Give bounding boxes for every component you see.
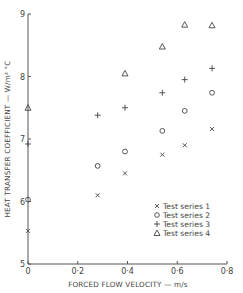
series-triangle — [25, 22, 215, 111]
y-tick-label: 6 — [20, 198, 25, 207]
y-tick-label: 7 — [20, 135, 25, 144]
x-tick-label: 0·6 — [171, 267, 184, 276]
x-tick-label: 0·8 — [221, 267, 234, 276]
y-tick-label: 5 — [20, 260, 25, 269]
legend-item-4: Test series 4 — [154, 229, 210, 238]
cross-icon — [155, 204, 159, 208]
x-tick-label: 0·4 — [121, 267, 134, 276]
x-tick-label: 0 — [25, 267, 30, 276]
legend-item-3: Test series 3 — [154, 220, 210, 229]
triangle-icon — [154, 230, 160, 236]
series-+ — [25, 65, 215, 147]
plus-icon — [154, 221, 160, 227]
scatter-plot: 56789 00·20·40·60·8 FORCED FLOW VELOCITY… — [0, 0, 243, 293]
legend-item-2: Test series 2 — [155, 211, 211, 220]
legend: Test series 1 Test series 2 Test series … — [154, 202, 210, 238]
y-tick-label: 8 — [20, 73, 25, 82]
y-axis-label: HEAT TRANSFER COEFFICIENT — W/m² °C — [3, 61, 12, 218]
circle-icon — [155, 213, 160, 218]
legend-label: Test series 2 — [162, 211, 210, 220]
legend-label: Test series 1 — [162, 202, 210, 211]
y-tick-label: 9 — [20, 10, 25, 19]
legend-label: Test series 4 — [162, 229, 210, 238]
x-axis-label: FORCED FLOW VELOCITY — m/s — [68, 280, 188, 289]
x-ticks: 00·20·40·60·8 — [25, 261, 233, 276]
legend-item-1: Test series 1 — [155, 202, 210, 211]
x-tick-label: 0·2 — [71, 267, 84, 276]
legend-label: Test series 3 — [162, 220, 210, 229]
